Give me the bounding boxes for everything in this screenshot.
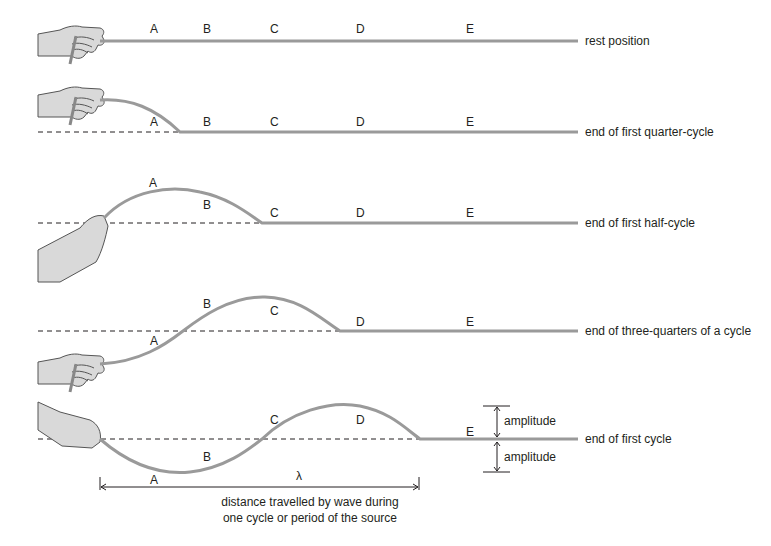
point-label-d: D <box>356 315 365 329</box>
row-rest-position <box>38 26 578 64</box>
rope <box>104 189 578 223</box>
point-label-e: E <box>466 315 474 329</box>
hand-icon <box>38 216 108 283</box>
point-label-b: B <box>203 22 211 36</box>
point-label-c: C <box>270 22 279 36</box>
rope <box>100 100 578 132</box>
point-label-a: A <box>150 473 158 487</box>
wavelength-caption: distance travelled by wave during one cy… <box>190 494 430 526</box>
amplitude-upper-label: amplitude <box>504 414 556 428</box>
point-label-d: D <box>356 22 365 36</box>
diagram-graphics <box>0 0 771 546</box>
point-label-c: C <box>270 206 279 220</box>
hand-icon <box>38 87 104 125</box>
point-label-b: B <box>203 115 211 129</box>
row-first-cycle <box>38 402 578 490</box>
point-label-c: C <box>270 413 279 427</box>
point-label-a: A <box>149 176 157 190</box>
amplitude-lower-label: amplitude <box>504 450 556 464</box>
point-label-c: C <box>270 115 279 129</box>
wavelength-caption-line2: one cycle or period of the source <box>190 510 430 526</box>
point-label-b: B <box>203 198 211 212</box>
row-quarter-cycle <box>38 87 578 132</box>
wavelength-caption-line1: distance travelled by wave during <box>190 494 430 510</box>
rope <box>100 297 578 364</box>
caption-half-cycle: end of first half-cycle <box>585 216 695 230</box>
caption-quarter-cycle: end of first quarter-cycle <box>585 125 714 139</box>
point-label-e: E <box>466 115 474 129</box>
point-label-b: B <box>203 450 211 464</box>
point-label-c: C <box>270 304 279 318</box>
point-label-d: D <box>356 206 365 220</box>
point-label-a: A <box>150 115 158 129</box>
point-label-e: E <box>466 22 474 36</box>
hand-icon <box>38 26 104 64</box>
point-label-a: A <box>150 22 158 36</box>
row-half-cycle <box>38 189 578 282</box>
wavelength-symbol: λ <box>296 469 302 483</box>
caption-three-quarters-cycle: end of three-quarters of a cycle <box>585 324 751 338</box>
point-label-a: A <box>150 334 158 348</box>
point-label-b: B <box>203 297 211 311</box>
point-label-d: D <box>356 413 365 427</box>
wave-on-rope-diagram: A B C D E rest position A B C D E end of… <box>0 0 771 546</box>
point-label-d: D <box>356 115 365 129</box>
caption-rest-position: rest position <box>585 34 650 48</box>
hand-icon <box>38 402 101 448</box>
point-label-e: E <box>466 206 474 220</box>
point-label-e: E <box>466 425 474 439</box>
caption-first-cycle: end of first cycle <box>585 432 672 446</box>
row-three-quarters-cycle <box>38 297 578 392</box>
hand-icon <box>38 354 104 392</box>
